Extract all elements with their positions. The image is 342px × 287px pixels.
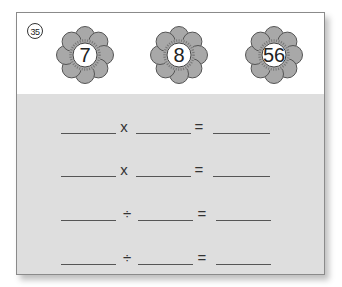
number-flower-3: 56	[245, 26, 303, 84]
divide-sign: ÷	[120, 249, 134, 267]
answer-blank-1[interactable]	[61, 176, 116, 177]
answer-blank-1[interactable]	[61, 264, 116, 265]
equals-sign: =	[195, 205, 209, 223]
flower-number: 8	[150, 26, 208, 84]
answer-blank-1[interactable]	[61, 220, 116, 221]
equation-row-1: x =	[61, 116, 291, 136]
equation-row-2: x =	[61, 159, 291, 179]
flower-number: 7	[56, 26, 114, 84]
answer-blank-3[interactable]	[213, 133, 270, 134]
answer-blank-2[interactable]	[136, 133, 191, 134]
answer-blank-2[interactable]	[136, 176, 191, 177]
number-flower-1: 7	[56, 26, 114, 84]
answer-blank-1[interactable]	[61, 133, 116, 134]
answer-area: x = x = ÷ = ÷ =	[17, 94, 324, 274]
flower-number: 56	[245, 26, 303, 84]
equals-sign: =	[192, 118, 206, 136]
answer-blank-2[interactable]	[138, 220, 193, 221]
equation-row-3: ÷ =	[61, 203, 291, 223]
problem-number: 35	[27, 23, 43, 39]
number-flowers-header: 35 7	[17, 13, 324, 94]
equals-sign: =	[192, 161, 206, 179]
answer-blank-3[interactable]	[216, 220, 271, 221]
answer-blank-3[interactable]	[213, 176, 270, 177]
answer-blank-2[interactable]	[138, 264, 193, 265]
number-flower-2: 8	[150, 26, 208, 84]
answer-blank-3[interactable]	[216, 264, 271, 265]
multiply-sign: x	[117, 118, 131, 136]
multiply-sign: x	[117, 161, 131, 179]
divide-sign: ÷	[120, 205, 134, 223]
equals-sign: =	[195, 249, 209, 267]
equation-row-4: ÷ =	[61, 247, 291, 267]
problem-card: 35 7	[16, 12, 325, 275]
